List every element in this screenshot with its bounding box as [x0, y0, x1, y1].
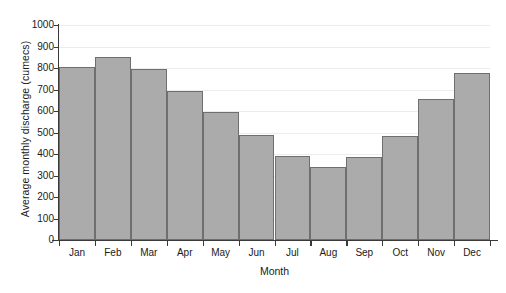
x-tick-label-mar: Mar: [131, 246, 167, 259]
x-tick-mark: [454, 241, 455, 246]
x-tick-mark: [167, 241, 168, 246]
x-tick-label-sep: Sep: [346, 246, 382, 259]
y-tick-label: 400: [24, 148, 54, 160]
x-tick-mark: [95, 241, 96, 246]
bar-apr: [167, 91, 203, 240]
gridline: [59, 25, 490, 26]
x-tick-label-nov: Nov: [418, 246, 454, 259]
x-tick-mark: [275, 241, 276, 246]
y-tick-mark: [54, 68, 59, 69]
bar-jun: [239, 135, 275, 240]
bar-mar: [131, 69, 167, 240]
y-axis-tick-labels: 10009008007006005004003002001000: [24, 19, 54, 241]
x-tick-label-oct: Oct: [382, 246, 418, 259]
x-tick-mark: [310, 241, 311, 246]
bar-jan: [59, 67, 95, 240]
y-tick-label: 300: [24, 170, 54, 182]
x-tick-label-jun: Jun: [239, 246, 275, 259]
x-tick-mark: [346, 241, 347, 246]
y-tick-label: 200: [24, 191, 54, 203]
y-tick-mark: [54, 25, 59, 26]
bar-feb: [95, 57, 131, 240]
x-tick-label-apr: Apr: [167, 246, 203, 259]
y-tick-label: 700: [24, 84, 54, 96]
y-tick-label: 100: [24, 213, 54, 225]
bar-may: [203, 112, 239, 240]
y-tick-mark: [54, 219, 59, 220]
x-tick-label-jan: Jan: [59, 246, 95, 259]
y-tick-mark: [54, 176, 59, 177]
x-tick-label-jul: Jul: [275, 246, 311, 259]
x-tick-label-aug: Aug: [310, 246, 346, 259]
bar-dec: [454, 73, 490, 240]
x-axis-tick-labels: JanFebMarAprMayJunJulAugSepOctNovDec: [59, 246, 490, 262]
x-tick-mark: [418, 241, 419, 246]
x-tick-label-may: May: [203, 246, 239, 259]
bar-chart-figure: Average monthly discharge (cumecs) 10009…: [0, 0, 506, 293]
y-tick-label: 1000: [24, 19, 54, 31]
bar-sep: [346, 157, 382, 240]
x-tick-label-feb: Feb: [95, 246, 131, 259]
y-tick-mark: [54, 90, 59, 91]
plot-area: [59, 25, 490, 240]
x-tick-mark: [382, 241, 383, 246]
bar-aug: [310, 167, 346, 240]
x-tick-label-dec: Dec: [454, 246, 490, 259]
x-tick-mark: [59, 241, 60, 246]
x-tick-mark: [490, 241, 491, 246]
y-tick-label: 800: [24, 62, 54, 74]
x-axis-title: Month: [59, 265, 490, 277]
x-tick-mark: [203, 241, 204, 246]
gridline: [59, 47, 490, 48]
y-tick-label: 0: [24, 234, 54, 246]
bar-nov: [418, 99, 454, 240]
y-tick-label: 600: [24, 105, 54, 117]
y-tick-mark: [54, 111, 59, 112]
y-tick-mark: [54, 47, 59, 48]
x-tick-mark: [239, 241, 240, 246]
bar-oct: [382, 136, 418, 240]
y-tick-mark: [54, 197, 59, 198]
bar-jul: [275, 156, 311, 240]
y-tick-mark: [54, 154, 59, 155]
y-tick-label: 900: [24, 41, 54, 53]
y-tick-mark: [54, 133, 59, 134]
x-tick-mark: [131, 241, 132, 246]
y-tick-label: 500: [24, 127, 54, 139]
